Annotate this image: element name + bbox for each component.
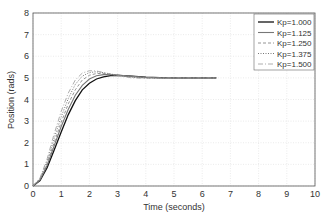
y-tick-label: 3 <box>24 116 29 126</box>
y-tick-label: 5 <box>24 73 29 83</box>
x-axis-ticks: 012345678910 <box>30 189 320 199</box>
series-line-0 <box>33 75 216 186</box>
x-tick-label: 0 <box>30 189 35 199</box>
y-tick-label: 8 <box>24 8 29 18</box>
legend-label: Kp=1.500 <box>277 60 312 69</box>
x-tick-label: 9 <box>284 189 289 199</box>
legend-label: Kp=1.375 <box>277 50 312 59</box>
y-tick-label: 6 <box>24 51 29 61</box>
x-tick-label: 7 <box>228 189 233 199</box>
x-tick-label: 5 <box>171 189 176 199</box>
x-axis-label: Time (seconds) <box>143 202 205 212</box>
y-axis-label: Position (rads) <box>6 71 16 129</box>
legend-label: Kp=1.000 <box>277 18 312 27</box>
legend: Kp=1.000Kp=1.125Kp=1.250Kp=1.375Kp=1.500 <box>254 14 314 70</box>
y-tick-label: 4 <box>24 95 29 105</box>
x-tick-label: 10 <box>310 189 320 199</box>
legend-label: Kp=1.250 <box>277 39 312 48</box>
x-tick-label: 1 <box>59 189 64 199</box>
y-tick-label: 2 <box>24 138 29 148</box>
y-tick-label: 0 <box>24 181 29 191</box>
x-tick-label: 3 <box>115 189 120 199</box>
y-tick-label: 7 <box>24 30 29 40</box>
x-tick-label: 6 <box>200 189 205 199</box>
x-tick-label: 2 <box>87 189 92 199</box>
x-tick-label: 8 <box>256 189 261 199</box>
y-tick-label: 1 <box>24 159 29 169</box>
series-lines <box>33 71 216 186</box>
x-tick-label: 4 <box>143 189 148 199</box>
line-chart: 012345678910 012345678 Time (seconds) Po… <box>0 0 331 220</box>
legend-label: Kp=1.125 <box>277 29 312 38</box>
series-line-1 <box>33 75 216 186</box>
y-axis-ticks: 012345678 <box>24 8 29 191</box>
